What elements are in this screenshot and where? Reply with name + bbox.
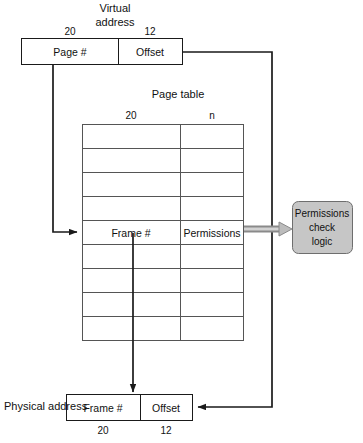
page-number-to-table-arrow — [53, 65, 77, 232]
physical-address-offset-field: Offset — [152, 402, 180, 414]
physical-address-bits-right: 12 — [160, 424, 171, 437]
permissions-logic-line1: Permissions — [295, 207, 349, 220]
virtual-address-page-field: Page # — [53, 46, 86, 58]
virtual-address-bits-right: 12 — [144, 25, 155, 38]
physical-address-caption: Physical address — [4, 400, 87, 413]
page-table-entry-permissions: Permissions — [183, 227, 240, 239]
physical-address-frame-field: Frame # — [83, 402, 122, 414]
virtual-address-caption-line1: Virtual — [100, 2, 131, 15]
page-table-bits-right: n — [209, 109, 215, 122]
permissions-logic-line2: check — [309, 221, 335, 234]
page-table-translation-diagram: Virtual address 20 12 Page # Offset Page… — [0, 0, 363, 443]
virtual-address-offset-field: Offset — [136, 46, 164, 58]
virtual-address-bits-left: 20 — [64, 25, 75, 38]
page-table-bits-left: 20 — [125, 109, 136, 122]
page-table-caption: Page table — [152, 88, 205, 101]
permissions-to-logic-arrow — [244, 222, 292, 236]
page-table-entry-frame: Frame # — [111, 227, 150, 239]
permissions-logic-line3: logic — [312, 235, 333, 248]
physical-address-bits-left: 20 — [97, 424, 108, 437]
virtual-address-caption-line2: address — [95, 16, 134, 29]
